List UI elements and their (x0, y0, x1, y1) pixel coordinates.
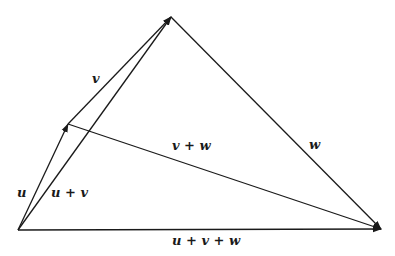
vector-v (68, 17, 171, 124)
vector-w (171, 17, 381, 229)
vector-v-plus-w (68, 124, 381, 229)
label-w: w (309, 138, 320, 151)
label-u-plus-v-plus-w: u + v + w (172, 234, 240, 247)
vector-u (18, 124, 68, 230)
label-u-plus-v: u + v (51, 186, 88, 199)
vector-u-plus-v-plus-w (18, 229, 381, 230)
label-u: u (17, 186, 26, 199)
vector-addition-diagram (0, 0, 395, 256)
vector-u-plus-v (18, 17, 171, 230)
label-v: v (92, 72, 100, 85)
label-v-plus-w: v + w (172, 139, 211, 152)
